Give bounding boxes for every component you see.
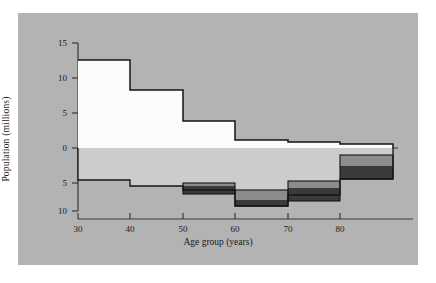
above-zero-bars (78, 60, 393, 148)
figure: Population (millions) Age group (years) … (0, 0, 436, 283)
x-tick-label-30: 30 (74, 224, 84, 234)
x-tick-label-70: 70 (284, 224, 294, 234)
x-tick-label-40: 40 (126, 224, 136, 234)
y-tick-label-neg10: 10 (58, 206, 68, 216)
y-axis: 15 10 5 0 5 10 (58, 38, 78, 216)
bar-60-70-dark (235, 200, 288, 206)
y-tick-label-15: 15 (58, 38, 68, 48)
y-tick-label-0: 0 (63, 143, 68, 153)
x-axis: 30 40 50 60 70 80 (74, 213, 414, 234)
x-tick-label-80: 80 (336, 224, 346, 234)
below-zero-bars (78, 148, 393, 206)
x-tick-label-60: 60 (231, 224, 241, 234)
x-tick-label-50: 50 (179, 224, 189, 234)
bar-80-90-dark (340, 166, 393, 179)
plot-area: 15 10 5 0 5 10 (18, 13, 418, 265)
y-tick-label-neg5: 5 (63, 178, 68, 188)
y-tick-label-5: 5 (63, 108, 68, 118)
chart-panel: Population (millions) Age group (years) … (18, 13, 418, 265)
bar-70-80-medium (288, 181, 340, 188)
y-axis-title: Population (millions) (1, 96, 11, 181)
bar-80-90-medium (340, 155, 393, 166)
y-tick-label-10: 10 (58, 73, 68, 83)
bar-60-70-medium (235, 190, 288, 200)
